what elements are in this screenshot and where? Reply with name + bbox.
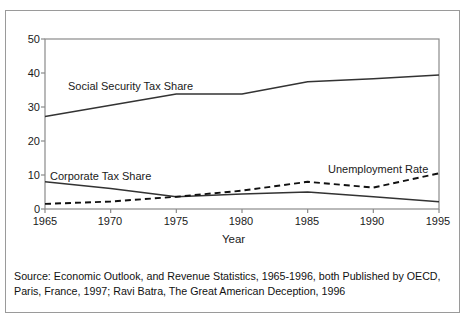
series-label-corporate-tax: Corporate Tax Share — [50, 170, 151, 182]
ytick-label-30: 30 — [14, 102, 40, 113]
series-line-corporate-tax-share — [45, 182, 439, 202]
xtick-label-1985: 1985 — [287, 216, 327, 227]
top-caption — [0, 0, 467, 7]
ytick-label-0: 0 — [14, 204, 40, 215]
xtick-label-1990: 1990 — [352, 216, 392, 227]
series-label-unemployment-rate: Unemployment Rate — [328, 163, 428, 175]
series-group — [45, 75, 439, 204]
xtick-label-1970: 1970 — [90, 216, 130, 227]
ytick-label-10: 10 — [14, 170, 40, 181]
ytick-label-20: 20 — [14, 136, 40, 147]
xtick-label-1975: 1975 — [156, 216, 196, 227]
series-label-social-security: Social Security Tax Share — [68, 80, 193, 92]
figure-container: 50 40 30 20 10 0 1965 1970 1975 1980 198… — [0, 0, 467, 322]
xtick-label-1995: 1995 — [418, 216, 458, 227]
chart-svg — [6, 11, 461, 266]
chart-plot-area: 50 40 30 20 10 0 1965 1970 1975 1980 198… — [6, 11, 461, 266]
figure-frame: 50 40 30 20 10 0 1965 1970 1975 1980 198… — [5, 10, 460, 313]
ytick-label-40: 40 — [14, 68, 40, 79]
xtick-label-1980: 1980 — [221, 216, 261, 227]
x-axis-title: Year — [6, 233, 461, 245]
source-note: Source: Economic Outlook, and Revenue St… — [14, 269, 454, 299]
xtick-label-1965: 1965 — [25, 216, 65, 227]
ytick-label-50: 50 — [14, 34, 40, 45]
